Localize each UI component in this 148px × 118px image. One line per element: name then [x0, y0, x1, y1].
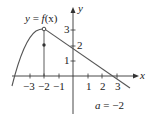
x-axis-label: x: [140, 70, 145, 81]
x-tick-label: −1: [53, 81, 65, 92]
annotation-rest: = −2: [101, 99, 124, 111]
label-x: (x): [45, 12, 58, 24]
y-tick-label: 2: [77, 40, 83, 51]
x-tick-label: 1: [86, 81, 92, 92]
x-axis-arrow-icon: [133, 74, 139, 79]
annotation-a-value: a = −2: [95, 100, 124, 111]
x-tick-label: 3: [115, 81, 121, 92]
function-graph: [0, 0, 148, 118]
y-axis-label: y: [78, 3, 83, 14]
open-circle-point: [42, 27, 46, 31]
y-tick-label: 3: [64, 24, 70, 35]
x-tick-label: −2: [38, 81, 50, 92]
y-axis-arrow-icon: [71, 7, 76, 13]
y-tick-label: 1: [64, 55, 70, 66]
label-eq: =: [30, 12, 42, 24]
function-label: y = f(x): [25, 13, 58, 24]
filled-dot-point: [42, 43, 45, 46]
x-tick-label: 2: [100, 81, 106, 92]
x-tick-label: −3: [23, 81, 35, 92]
function-curve-left: [12, 29, 43, 86]
